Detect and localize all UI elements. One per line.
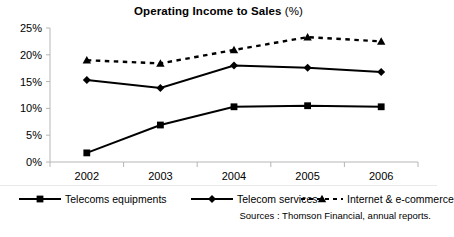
legend-swatch-square-icon [18, 193, 62, 205]
marker-diamond [377, 68, 385, 76]
sources-note: Sources : Thomson Financial, annual repo… [239, 210, 431, 221]
y-tick-label: 20% [20, 49, 42, 61]
marker-square [304, 102, 311, 109]
marker-square [378, 103, 385, 110]
x-tick-label: 2004 [222, 170, 246, 182]
marker-diamond [156, 84, 164, 92]
y-tick-label: 5% [26, 129, 42, 141]
series-diamond [83, 62, 385, 93]
plot-area: 0%5%10%15%20%25%20022003200420052006 [0, 0, 437, 185]
legend-swatch-triangle-icon [300, 193, 344, 205]
marker-square [157, 122, 164, 129]
series-line [87, 106, 381, 153]
x-tick-label: 2002 [75, 170, 99, 182]
legend-item-square[interactable]: Telecoms equipments [18, 190, 167, 208]
marker-diamond [83, 76, 91, 84]
marker-square [83, 149, 90, 156]
legend-item-diamond[interactable]: Telecom services [190, 190, 318, 208]
series-square [83, 102, 384, 156]
marker-diamond [208, 195, 216, 203]
y-tick-label: 25% [20, 22, 42, 34]
x-tick-label: 2005 [295, 170, 319, 182]
legend-item-triangle[interactable]: Internet & e-commerce [300, 190, 454, 208]
marker-square [37, 196, 44, 203]
legend-label: Internet & e-commerce [347, 193, 454, 205]
legend-swatch-diamond-icon [190, 193, 234, 205]
marker-square [231, 103, 238, 110]
x-tick-label: 2006 [369, 170, 393, 182]
chart-legend: Telecoms equipmentsTelecom servicesInter… [0, 190, 437, 208]
y-tick-label: 15% [20, 76, 42, 88]
legend-label: Telecoms equipments [65, 193, 167, 205]
marker-triangle [377, 37, 385, 45]
x-tick-label: 2003 [148, 170, 172, 182]
y-tick-label: 10% [20, 102, 42, 114]
marker-triangle [156, 59, 164, 67]
y-tick-label: 0% [26, 156, 42, 168]
marker-diamond [304, 64, 312, 72]
legend-divider [0, 185, 437, 186]
marker-diamond [230, 62, 238, 70]
